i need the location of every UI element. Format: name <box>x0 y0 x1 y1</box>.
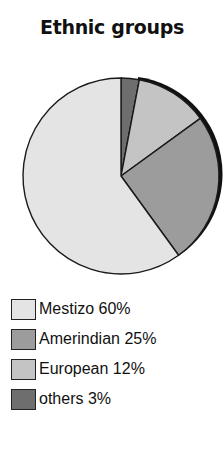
legend-label: Mestizo 60% <box>39 300 131 318</box>
legend-swatch <box>11 299 36 320</box>
legend-item-others: others 3% <box>11 388 156 410</box>
legend-label: Amerindian 25% <box>39 330 156 348</box>
legend-swatch <box>11 329 36 350</box>
legend-item-european: European 12% <box>11 358 156 380</box>
legend-item-amerindian: Amerindian 25% <box>11 328 156 350</box>
legend-swatch <box>11 389 36 410</box>
pie-slices <box>23 78 219 274</box>
legend-item-mestizo: Mestizo 60% <box>11 298 156 320</box>
pie-chart <box>0 0 224 290</box>
legend-swatch <box>11 359 36 380</box>
legend-label: others 3% <box>39 390 111 408</box>
legend-label: European 12% <box>39 360 145 378</box>
legend: Mestizo 60% Amerindian 25% European 12% … <box>11 298 156 418</box>
